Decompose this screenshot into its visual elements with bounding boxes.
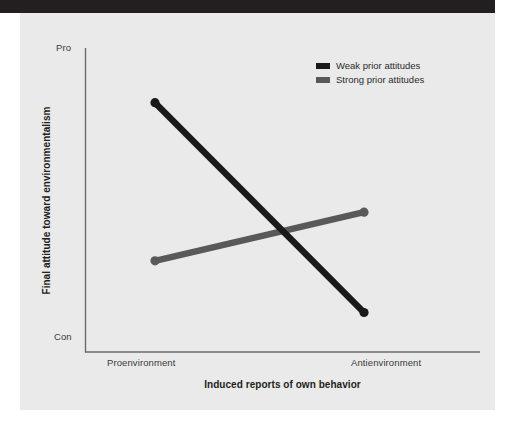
y-axis-tick-label-con: Con xyxy=(54,331,72,342)
y-axis-title: Final attitude toward environmentalism xyxy=(41,71,52,331)
legend-item-weak-prior-attitudes: Weak prior attitudes xyxy=(316,59,424,72)
x-axis-title: Induced reports of own behavior xyxy=(85,379,480,390)
legend-item-strong-prior-attitudes: Strong prior attitudes xyxy=(316,73,424,86)
legend-swatch-icon-weak xyxy=(316,63,330,69)
legend-label-weak: Weak prior attitudes xyxy=(336,59,420,72)
x-axis-tick-label-proenvironment: Proenvironment xyxy=(107,357,175,368)
chart-legend: Weak prior attitudes Strong prior attitu… xyxy=(316,59,424,87)
x-axis-tick-label-antienvironment: Antienvironment xyxy=(351,357,421,368)
legend-swatch-icon-strong xyxy=(316,77,330,83)
legend-label-strong: Strong prior attitudes xyxy=(336,73,424,86)
y-axis-tick-label-pro: Pro xyxy=(56,42,71,53)
top-banner-bar xyxy=(0,0,495,13)
